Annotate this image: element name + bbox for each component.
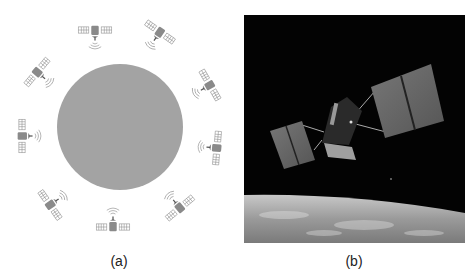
satellite-photo-svg	[244, 15, 465, 243]
satellite-icon	[135, 19, 176, 57]
satellite-icon	[197, 130, 223, 165]
satellite-icon	[78, 26, 111, 49]
caption-a: (a)	[110, 253, 127, 269]
constellation-diagram	[0, 0, 240, 250]
earth-circle	[57, 64, 183, 190]
satellite-icon	[155, 183, 196, 222]
satellite-photo	[244, 15, 465, 243]
constellation-svg	[0, 0, 240, 250]
caption-b: (b)	[345, 253, 362, 269]
satellite-icon	[18, 119, 41, 152]
satellite-icon	[23, 56, 62, 97]
satellite-icon	[185, 68, 222, 109]
satellite-icon	[96, 208, 129, 231]
satellite-icon	[37, 180, 75, 221]
